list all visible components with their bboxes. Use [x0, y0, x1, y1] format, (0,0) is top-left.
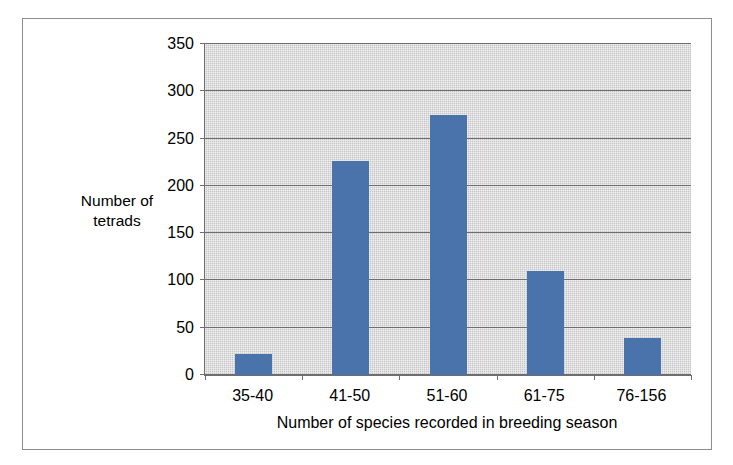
y-tick-mark [200, 138, 205, 139]
y-tick-label: 150 [126, 225, 194, 241]
bar [430, 115, 467, 375]
y-tick-mark [200, 90, 205, 91]
y-tick-label: 0 [126, 367, 194, 383]
bar [624, 338, 661, 375]
y-tick-label: 300 [126, 83, 194, 99]
y-tick-mark [200, 327, 205, 328]
y-tick-mark [200, 185, 205, 186]
y-tick-mark [200, 43, 205, 44]
plot-area [204, 44, 691, 376]
x-tick-label: 76-156 [593, 388, 690, 404]
chart-figure: Number of tetrads 050100150200250300350 … [0, 0, 733, 465]
bar [235, 354, 272, 375]
x-tick-mark [594, 375, 595, 380]
y-tick-label: 100 [126, 272, 194, 288]
x-tick-label: 41-50 [301, 388, 398, 404]
x-tick-label: 61-75 [496, 388, 593, 404]
bar [527, 271, 564, 375]
gridline [205, 43, 691, 44]
bar [332, 161, 369, 375]
x-tick-label: 51-60 [398, 388, 495, 404]
gridline [205, 90, 691, 91]
x-axis-title: Number of species recorded in breeding s… [204, 414, 690, 432]
y-tick-label: 250 [126, 131, 194, 147]
x-tick-mark [691, 375, 692, 380]
x-tick-mark [497, 375, 498, 380]
y-tick-mark [200, 232, 205, 233]
x-tick-mark [399, 375, 400, 380]
x-tick-label: 35-40 [204, 388, 301, 404]
x-tick-mark [205, 375, 206, 380]
y-tick-label: 350 [126, 36, 194, 52]
y-tick-label: 200 [126, 178, 194, 194]
y-tick-label: 50 [126, 320, 194, 336]
x-tick-mark [302, 375, 303, 380]
y-tick-mark [200, 279, 205, 280]
